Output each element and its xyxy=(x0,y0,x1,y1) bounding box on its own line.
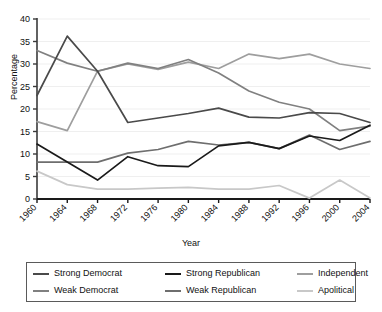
line-chart: Percentage Year 0510152025303540 1960196… xyxy=(0,0,382,250)
x-tick-label: 2000 xyxy=(320,202,341,223)
x-tick-label: 1992 xyxy=(259,202,280,223)
x-tick-label: 1996 xyxy=(290,202,311,223)
x-tick-label: 1964 xyxy=(47,202,68,223)
legend-label: Weak Democrat xyxy=(54,286,118,295)
y-tick-label: 10 xyxy=(20,149,30,159)
legend-item: Weak Republican xyxy=(165,286,297,295)
y-tick-label: 0 xyxy=(25,194,30,204)
y-tick-label: 5 xyxy=(25,172,30,182)
legend-color-swatch xyxy=(297,273,313,275)
x-tick-label: 2004 xyxy=(350,202,371,223)
legend-item: Weak Democrat xyxy=(33,286,165,295)
y-tick-label: 35 xyxy=(20,37,30,47)
y-tick-label: 25 xyxy=(20,82,30,92)
y-tick-label: 15 xyxy=(20,127,30,137)
x-tick-label: 1988 xyxy=(229,202,250,223)
legend-label: Weak Republican xyxy=(186,286,256,295)
x-tick-label: 1960 xyxy=(17,202,38,223)
x-tick-label: 1980 xyxy=(169,202,190,223)
legend-item: Apolitical xyxy=(297,286,361,295)
data-series xyxy=(37,36,370,198)
y-tick-label: 20 xyxy=(20,104,30,114)
legend-item: Independent xyxy=(297,269,361,278)
chart-legend: Strong DemocratStrong RepublicanIndepend… xyxy=(26,262,356,302)
series-line xyxy=(37,135,370,162)
y-tick-label: 30 xyxy=(20,59,30,69)
legend-color-swatch xyxy=(33,273,49,275)
legend-label: Independent xyxy=(318,269,368,278)
legend-item: Strong Democrat xyxy=(33,269,165,278)
legend-color-swatch xyxy=(165,273,181,275)
x-tick-label: 1972 xyxy=(108,202,129,223)
chart-screenshot: Percentage Year 0510152025303540 1960196… xyxy=(0,0,382,312)
chart-canvas: 0510152025303540 19601964196819721976198… xyxy=(0,0,382,250)
series-line xyxy=(37,125,370,180)
legend-item: Strong Republican xyxy=(165,269,297,278)
legend-color-swatch xyxy=(33,290,49,292)
series-line xyxy=(37,171,370,198)
legend-color-swatch xyxy=(297,290,313,292)
y-tick-label: 40 xyxy=(20,14,30,24)
legend-color-swatch xyxy=(165,290,181,292)
x-tick-labels: 1960196419681972197619801984198819921996… xyxy=(17,202,371,223)
gridlines xyxy=(37,19,370,177)
legend-label: Strong Democrat xyxy=(54,269,122,278)
y-tick-labels: 0510152025303540 xyxy=(20,14,30,204)
y-axis xyxy=(33,18,37,199)
x-tick-label: 1976 xyxy=(138,202,159,223)
legend-label: Strong Republican xyxy=(186,269,260,278)
x-tick-label: 1968 xyxy=(78,202,99,223)
x-axis xyxy=(37,199,370,203)
x-tick-label: 1984 xyxy=(199,202,220,223)
legend-label: Apolitical xyxy=(318,286,354,295)
